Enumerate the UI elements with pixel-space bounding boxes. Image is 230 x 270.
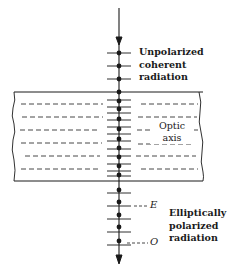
output-label-line1: Elliptically [169, 207, 226, 220]
input-label-line1: Unpolarized [139, 46, 204, 59]
optic-axis-label-line2: axis [150, 132, 194, 144]
arrow-down-icon [116, 37, 122, 45]
polarization-dots [117, 51, 122, 244]
output-label-line2: polarized [169, 220, 226, 233]
output-label-line3: radiation [169, 232, 226, 245]
arrow-down-icon [116, 255, 122, 264]
optic-axis-label-line1: Optic [150, 120, 194, 132]
e-ray-label: E [150, 199, 157, 212]
optic-axis-label: Optic axis [150, 120, 194, 144]
o-ray-label: O [150, 236, 158, 249]
output-radiation-label: Elliptically polarized radiation [169, 207, 226, 245]
input-radiation-label: Unpolarized coherent radiation [139, 46, 204, 84]
input-label-line2: coherent [139, 59, 204, 72]
ray-leader-lines [127, 206, 148, 243]
optic-axis-dashes-left [20, 104, 103, 169]
input-label-line3: radiation [139, 71, 204, 84]
